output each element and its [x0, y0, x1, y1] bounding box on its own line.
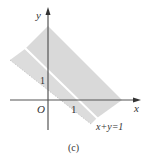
origin-label: O [37, 103, 45, 115]
x-axis-label: x [133, 102, 139, 114]
y-tick-label-1: 1 [40, 75, 45, 86]
y-axis-arrow-icon [46, 7, 51, 15]
y-axis-label: y [35, 9, 41, 21]
coordinate-diagram: y x O 1 1 x+y=1 (c) [0, 0, 150, 162]
line-equation-label: x+y=1 [95, 121, 123, 132]
figure-caption: (c) [68, 142, 79, 154]
x-tick-label-1: 1 [71, 103, 77, 115]
